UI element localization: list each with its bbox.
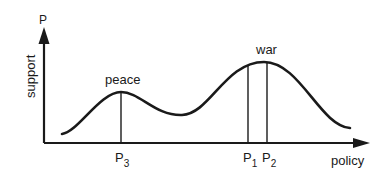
peace-peak-label: peace — [105, 73, 140, 86]
diagram-graphic — [0, 0, 387, 179]
y-axis-top-label: P — [39, 14, 47, 26]
p1-label: P1 — [243, 151, 257, 164]
x-axis-title: policy — [331, 154, 364, 167]
p3-label: P3 — [115, 151, 129, 164]
x-axis-arrowhead-icon — [353, 138, 370, 148]
p2-label: P2 — [262, 151, 276, 164]
war-peak-label: war — [256, 43, 277, 56]
support-policy-diagram: P support policy peace war P3 P1 P2 — [0, 0, 387, 179]
y-axis-arrowhead-icon — [39, 27, 50, 44]
y-axis-title: support — [24, 55, 37, 98]
